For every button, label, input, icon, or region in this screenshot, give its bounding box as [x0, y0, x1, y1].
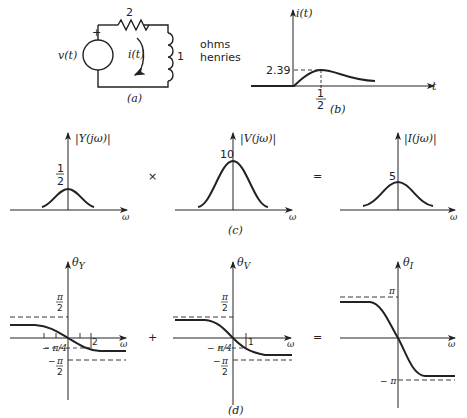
time-plot-ylabel: i(t) [296, 7, 313, 20]
source-label: v(t) [58, 49, 77, 62]
plus-operator: + [148, 331, 157, 344]
phase-I-minus-pi: − π [380, 376, 397, 386]
caption-d: (d) [228, 404, 244, 417]
caption-c: (c) [228, 224, 243, 237]
phase-V-neg-two: 2 [222, 367, 228, 377]
voltage-source-icon [83, 40, 113, 70]
units-ohms: ohms [200, 38, 230, 51]
phase-Y-neg: − [48, 356, 56, 366]
mag-Y-label: |Y(jω)| [75, 132, 111, 146]
mag-I-xlabel: ω [450, 212, 458, 222]
phase-V-two: 2 [222, 303, 228, 313]
phase-V-plot [173, 262, 292, 405]
source-polarity: + [92, 26, 101, 39]
mag-I-peak: 5 [389, 170, 396, 183]
mag-V-label: |V(jω)| [240, 132, 276, 146]
resistor-value: 2 [126, 6, 133, 19]
phase-I-pi: π [388, 286, 396, 296]
mag-Y-peak-den: 2 [57, 175, 64, 188]
current-label: i(t) [128, 48, 145, 61]
mag-V-xlabel: ω [289, 212, 297, 222]
phase-Y-neg-two: 2 [57, 367, 63, 377]
time-plot-xlabel: t [432, 80, 437, 93]
phase-V-neg: − [213, 356, 221, 366]
peak-value: 2.39 [266, 64, 291, 77]
phase-V-pi: π [221, 292, 229, 302]
phase-Y-pi: π [56, 292, 64, 302]
phase-Y-tick-2: 2 [92, 337, 98, 347]
phase-Y-plot [10, 262, 126, 400]
caption-a: (a) [127, 92, 142, 105]
phase-V-xlabel: ω [287, 339, 295, 349]
phase-I-xlabel: ω [448, 339, 456, 349]
mag-I-plot [340, 133, 455, 210]
phase-V-ylabel: θV [237, 256, 252, 271]
phase-Y-neg-pi: π [56, 356, 64, 366]
time-plot [251, 10, 434, 90]
units-henries: henries [200, 51, 241, 64]
mag-I-label: |I(jω)| [404, 132, 437, 146]
phase-Y-ylabel: θY [72, 256, 86, 271]
phase-I-plot [340, 262, 455, 408]
mag-Y-peak-num: 1 [57, 162, 64, 175]
phase-V-neg-pi: π [221, 356, 229, 366]
inductor-value: 1 [177, 50, 184, 63]
phase-Y-minus-pi4: − π/4 [42, 343, 67, 353]
peak-time-den: 2 [317, 99, 324, 112]
phase-V-minus-pi4: − π/4 [207, 343, 232, 353]
mag-Y-xlabel: ω [122, 212, 130, 222]
phase-V-tick-1: 1 [248, 337, 254, 347]
phase-Y-xlabel: ω [120, 339, 128, 349]
equals-operator: = [313, 170, 322, 183]
caption-b: (b) [330, 103, 346, 116]
figure-canvas: 2 1 + v(t) i(t) ohms henries (a) i(t) t … [0, 0, 467, 418]
equals-operator-2: = [313, 331, 322, 344]
inductor-icon [168, 33, 173, 81]
phase-I-ylabel: θI [403, 256, 414, 271]
times-operator: × [148, 170, 157, 183]
phase-Y-two: 2 [57, 303, 63, 313]
mag-V-peak: 10 [220, 148, 234, 161]
